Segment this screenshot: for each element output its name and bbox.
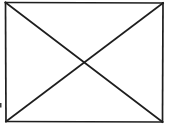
top-edge-line <box>6 3 164 4</box>
left-edge-speck <box>0 103 2 108</box>
right-edge-line <box>163 3 164 122</box>
left-edge-line <box>6 3 7 122</box>
rectangle-with-diagonals-figure <box>0 0 174 134</box>
drawing-canvas <box>0 0 174 134</box>
bottom-edge-line <box>6 122 163 123</box>
